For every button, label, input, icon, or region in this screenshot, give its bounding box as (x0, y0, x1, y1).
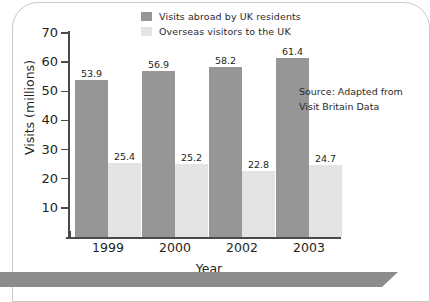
bar-2002-series2 (242, 171, 275, 237)
bottom-band (0, 272, 382, 287)
source-note-line1: Source: Adapted from (299, 84, 403, 99)
bar-value-label-2003-series2: 24.7 (305, 153, 346, 164)
bar-value-label-2000-series2: 25.2 (171, 152, 212, 163)
bar-1999-series2 (108, 163, 141, 237)
source-note-line2: Visit Britain Data (299, 99, 403, 114)
bar-2000-series2 (175, 164, 208, 237)
bar-value-label-2002-series1: 58.2 (205, 55, 246, 66)
bar-value-label-2000-series1: 56.9 (138, 59, 179, 70)
source-note: Source: Adapted from Visit Britain Data (299, 84, 403, 114)
bar-value-label-1999-series1: 53.9 (71, 68, 112, 79)
bar-chart: Visits abroad by UK residents Overseas v… (0, 0, 418, 272)
bar-2002-series1 (209, 67, 242, 237)
bottom-band-bevel (382, 272, 398, 287)
bar-value-label-2003-series1: 61.4 (272, 46, 313, 57)
bar-series-container: 53.925.456.925.258.222.861.424.7 (0, 0, 418, 272)
bar-value-label-2002-series2: 22.8 (238, 159, 279, 170)
bar-2003-series2 (309, 165, 342, 237)
bar-value-label-1999-series2: 25.4 (104, 151, 145, 162)
